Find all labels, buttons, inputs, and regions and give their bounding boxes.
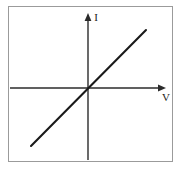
horizontal-axis-label: V: [162, 91, 170, 103]
arrow-up-icon: [85, 13, 92, 21]
iv-characteristic-plot: I V: [0, 0, 182, 174]
horizontal-axis-label-text: V: [162, 91, 170, 103]
figure-container: I V: [0, 0, 182, 174]
vertical-axis-label-text: I: [94, 11, 98, 23]
vertical-axis-label: I: [94, 11, 98, 23]
